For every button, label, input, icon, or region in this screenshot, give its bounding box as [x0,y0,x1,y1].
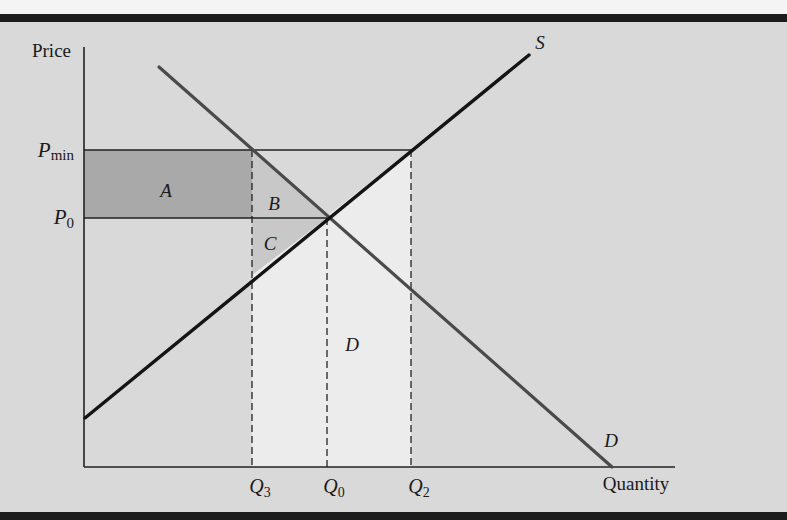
q0-symbol: Q [323,475,338,497]
pmin-label: Pmin [37,138,75,163]
y-axis-label: Price [32,40,71,61]
demand-label: D [603,430,618,451]
p0-label: P0 [53,205,74,231]
pmin-subscript: min [51,147,75,163]
q3-symbol: Q [249,475,264,497]
q0-subscript: 0 [338,485,345,500]
p0-subscript: 0 [67,215,75,231]
q3-subscript: 3 [264,485,271,500]
bottom-rule [0,512,787,520]
region-a-label: A [158,180,172,201]
region-b-label: B [268,193,280,214]
q2-label: Q2 [408,475,429,500]
pmin-symbol: P [37,138,51,162]
price-floor-diagram: Price Quantity Pmin P0 Q3 Q0 Q2 S D A B … [0,0,787,520]
q2-subscript: 2 [423,485,430,500]
p0-symbol: P [53,205,67,229]
supply-label: S [535,32,545,53]
q2-symbol: Q [408,475,423,497]
region-c-label: C [264,233,277,254]
region-d-label: D [344,334,359,355]
q3-label: Q3 [249,475,270,500]
x-axis-label: Quantity [603,473,670,494]
q0-label: Q0 [323,475,344,500]
